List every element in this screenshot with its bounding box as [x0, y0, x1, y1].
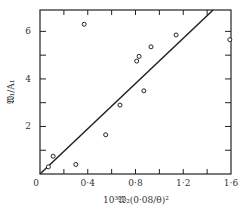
data-point	[74, 162, 78, 166]
x-tick-label: 0·8	[128, 178, 143, 188]
y-tick-label: 4	[25, 74, 31, 84]
data-point	[142, 89, 146, 93]
data-points	[46, 22, 231, 169]
regression-line	[40, 10, 213, 174]
y-tick-label: 2	[25, 121, 31, 131]
y-tick-label: 6	[25, 26, 31, 36]
y-tick-labels: 246	[25, 26, 31, 131]
x-tick-label: 0	[33, 178, 39, 188]
data-point	[135, 59, 139, 63]
data-point	[137, 54, 141, 58]
data-point	[174, 33, 178, 37]
data-point	[149, 45, 153, 49]
data-point	[51, 154, 55, 158]
x-tick-labels: 00·40·81·21·6	[33, 178, 238, 188]
x-tick-label: 1·2	[176, 178, 190, 188]
data-point	[118, 103, 122, 107]
scatter-chart: 00·40·81·21·6 246 10³𝔚₂(0·08/θ)² 𝔚₁/A₁	[0, 0, 242, 209]
data-point	[46, 165, 50, 169]
axis-ticks	[40, 10, 231, 174]
fit-line	[40, 10, 213, 174]
x-axis-label: 10³𝔚₂(0·08/θ)²	[103, 195, 169, 205]
data-point	[104, 133, 108, 137]
data-point	[82, 22, 86, 26]
x-tick-label: 1·6	[224, 178, 239, 188]
data-point	[228, 38, 232, 42]
plot-border	[40, 10, 231, 174]
plot-frame	[40, 10, 231, 174]
y-axis-label: 𝔚₁/A₁	[6, 80, 16, 105]
x-tick-label: 0·4	[81, 178, 96, 188]
